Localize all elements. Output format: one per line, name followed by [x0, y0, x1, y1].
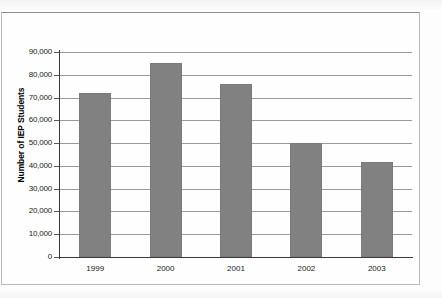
x-axis-tick-label: 2001	[206, 264, 266, 273]
x-axis-tick-label: 2002	[276, 264, 336, 273]
y-axis-tick-label: 0	[8, 253, 52, 261]
scan-shade-top	[0, 0, 442, 12]
y-axis-tick-label: 50,000	[8, 139, 52, 147]
y-axis-tick-labels: 010,00020,00030,00040,00050,00060,00070,…	[4, 0, 52, 298]
bar	[150, 63, 182, 257]
bar	[79, 93, 111, 257]
y-axis-tick-label: 30,000	[8, 185, 52, 193]
x-axis-tick-label: 2000	[136, 264, 196, 273]
y-axis-tick-label: 20,000	[8, 207, 52, 215]
bar	[290, 143, 322, 257]
y-axis-tick-label: 40,000	[8, 162, 52, 170]
bar	[361, 162, 393, 257]
y-axis-tick-label: 70,000	[8, 94, 52, 102]
scanned-page: Number of IEP Students 010,00020,00030,0…	[0, 0, 442, 298]
plot-area	[60, 52, 412, 257]
y-axis-tick-label: 10,000	[8, 230, 52, 238]
bar	[220, 84, 252, 257]
x-axis-tick-label: 1999	[65, 264, 125, 273]
gridline	[60, 52, 412, 53]
gridline	[60, 75, 412, 76]
x-axis-tick-label: 2003	[347, 264, 407, 273]
scan-shade-bottom	[0, 286, 442, 298]
y-axis-tick-label: 90,000	[8, 48, 52, 56]
y-axis-tick-label: 80,000	[8, 71, 52, 79]
y-axis-tick-label: 60,000	[8, 116, 52, 124]
x-axis-line	[59, 257, 413, 258]
